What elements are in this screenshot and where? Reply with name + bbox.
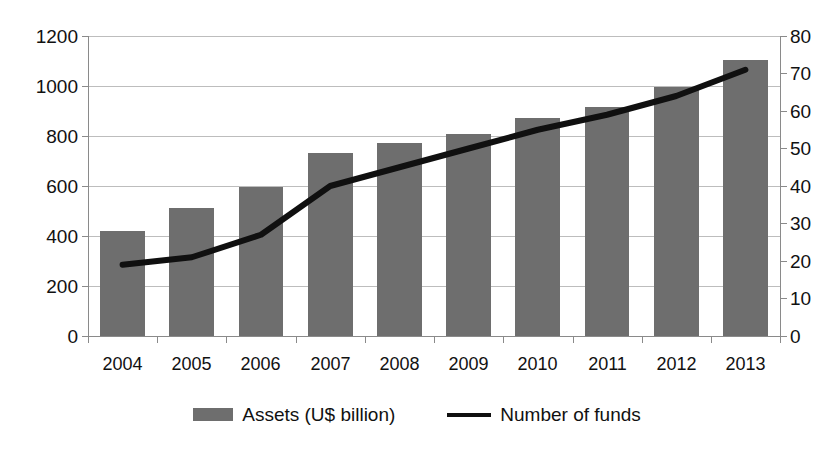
y-axis-left-tick: 0	[2, 327, 78, 346]
y-axis-right-tickmark	[781, 261, 787, 262]
x-axis-tickmark	[226, 336, 227, 343]
y-axis-right-tick: 10	[790, 289, 834, 308]
x-axis-tickmark	[503, 336, 504, 343]
y-axis-right-tickmark	[781, 336, 787, 337]
x-axis-tickmark	[642, 336, 643, 343]
chart-legend: Assets (U$ billion) Number of funds	[0, 404, 834, 425]
x-axis-tickmark	[296, 336, 297, 343]
y-axis-left-tick: 400	[2, 227, 78, 246]
y-axis-left-tick: 1200	[2, 27, 78, 46]
x-axis-label-2013: 2013	[711, 354, 780, 374]
y-axis-right-tickmark	[781, 111, 787, 112]
x-axis-label-2009: 2009	[434, 354, 503, 374]
y-axis-right-tick: 0	[790, 327, 834, 346]
y-axis-right-tick: 80	[790, 27, 834, 46]
x-axis-tickmark	[434, 336, 435, 343]
y-axis-right-tick: 20	[790, 252, 834, 271]
y-axis-right-tickmark	[781, 148, 787, 149]
y-axis-right-tickmark	[781, 186, 787, 187]
y-axis-left-tick: 1000	[2, 77, 78, 96]
line-swatch-icon	[447, 413, 491, 417]
x-axis-tickmark	[573, 336, 574, 343]
y-axis-left-spine	[88, 36, 89, 337]
y-axis-right-tickmark	[781, 73, 787, 74]
x-axis-label-2004: 2004	[88, 354, 157, 374]
y-axis-left-tick: 800	[2, 127, 78, 146]
x-axis-label-2006: 2006	[226, 354, 295, 374]
y-axis-right-labels: 80 70 60 50 40 30 20 10 0	[790, 0, 834, 452]
x-axis-tickmark	[780, 336, 781, 343]
legend-item-number-of-funds: Number of funds	[447, 404, 640, 425]
y-axis-right-tickmark	[781, 298, 787, 299]
x-axis-label-2011: 2011	[573, 354, 642, 374]
x-axis-tickmark	[88, 336, 89, 343]
plot-area	[88, 36, 780, 336]
y-axis-left-labels: 1200 1000 800 600 400 200 0	[0, 0, 78, 452]
legend-item-assets: Assets (U$ billion)	[193, 404, 395, 425]
y-axis-left-tick: 200	[2, 277, 78, 296]
legend-label-assets: Assets (U$ billion)	[242, 404, 395, 425]
x-axis-label-2008: 2008	[365, 354, 434, 374]
bar-swatch-icon	[193, 408, 233, 421]
y-axis-right-tickmark	[781, 223, 787, 224]
x-axis-tickmark	[711, 336, 712, 343]
y-axis-right-tick: 60	[790, 102, 834, 121]
x-axis-label-2010: 2010	[503, 354, 572, 374]
x-axis-label-2012: 2012	[642, 354, 711, 374]
chart-container: 1200 1000 800 600 400 200 0 80 70 60 50 …	[0, 0, 834, 452]
y-axis-right-tick: 70	[790, 64, 834, 83]
legend-label-number-of-funds: Number of funds	[500, 404, 640, 425]
y-axis-right-spine	[780, 36, 781, 337]
x-axis-tickmark	[157, 336, 158, 343]
y-axis-right-tickmark	[781, 36, 787, 37]
x-axis-label-2005: 2005	[157, 354, 226, 374]
y-axis-right-tick: 30	[790, 214, 834, 233]
x-axis-tickmark	[365, 336, 366, 343]
x-axis-label-2007: 2007	[296, 354, 365, 374]
y-axis-left-tick: 600	[2, 177, 78, 196]
line-series-number-of-funds	[88, 36, 780, 336]
y-axis-right-tick: 50	[790, 139, 834, 158]
y-axis-right-tick: 40	[790, 177, 834, 196]
